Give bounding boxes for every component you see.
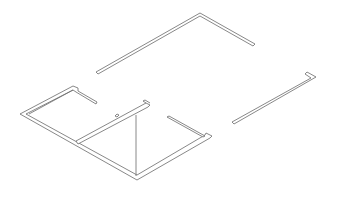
top-l-wall — [96, 13, 255, 74]
left-room-walls — [20, 86, 212, 180]
inner-partition-wall — [76, 100, 150, 144]
right-hook-wall — [232, 72, 316, 124]
isometric-wall-diagram — [0, 0, 337, 200]
short-partition-wall — [167, 116, 205, 137]
